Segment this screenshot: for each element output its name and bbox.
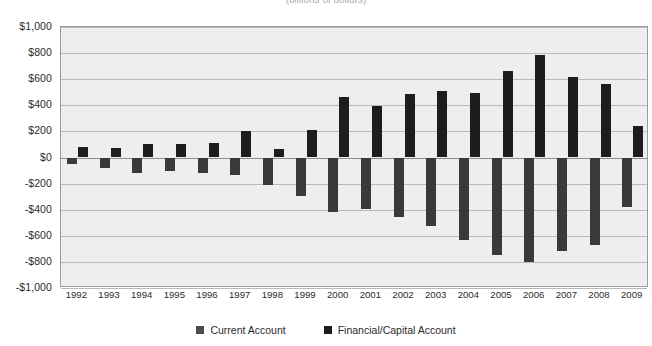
legend-item-current-account[interactable]: Current Account [196, 324, 285, 336]
x-axis-tick-label-1999: 1999 [289, 289, 322, 300]
y-axis-tick-label: $0 [40, 151, 52, 163]
bar-current-account-1996 [198, 158, 208, 174]
x-axis-tick-label-1992: 1992 [60, 289, 93, 300]
bar-financial-capital-account-2008 [601, 84, 611, 157]
x-axis-tick-label-1994: 1994 [125, 289, 158, 300]
y-axis-tick-label: -$1,000 [16, 281, 52, 293]
bar-current-account-2003 [426, 158, 436, 226]
bar-current-account-1999 [296, 158, 306, 197]
gridline [61, 262, 647, 263]
bar-current-account-2000 [328, 158, 338, 212]
legend-label: Financial/Capital Account [338, 324, 456, 336]
x-axis-tick-label-1995: 1995 [158, 289, 191, 300]
x-axis-tick-label-1996: 1996 [191, 289, 224, 300]
x-axis-tick-label-2003: 2003 [419, 289, 452, 300]
chart-title-clipped: (billions of dollars) [0, 0, 652, 12]
bar-current-account-1995 [165, 158, 175, 172]
x-axis-tick-label-2000: 2000 [321, 289, 354, 300]
y-axis-tick-label: -$400 [25, 203, 52, 215]
bar-financial-capital-account-2009 [633, 126, 643, 157]
legend-item-financial-capital-account[interactable]: Financial/Capital Account [324, 324, 456, 336]
bar-financial-capital-account-1994 [143, 144, 153, 158]
y-axis-tick-label: $800 [28, 46, 52, 58]
chart-figure: (billions of dollars) $1,000$800$600$400… [0, 0, 652, 346]
x-axis-tick-label-2004: 2004 [452, 289, 485, 300]
y-axis-tick-label: -$200 [25, 177, 52, 189]
y-axis-tick-label: $1,000 [19, 20, 52, 32]
bar-financial-capital-account-2001 [372, 106, 382, 157]
bar-current-account-2005 [492, 158, 502, 256]
plot-area [60, 26, 648, 287]
x-axis-tick-label-2005: 2005 [485, 289, 518, 300]
bar-current-account-1998 [263, 158, 273, 185]
bar-current-account-2004 [459, 158, 469, 240]
bar-current-account-2009 [622, 158, 632, 207]
gridline [61, 131, 647, 132]
y-axis-labels: $1,000$800$600$400$200$0-$200-$400-$600-… [0, 26, 56, 287]
gridline [61, 27, 647, 28]
x-axis-tick-label-2001: 2001 [354, 289, 387, 300]
chart-legend: Current AccountFinancial/Capital Account [0, 322, 652, 338]
bar-financial-capital-account-2003 [437, 91, 447, 157]
y-axis-tick-label: -$800 [25, 255, 52, 267]
bar-current-account-1997 [230, 158, 240, 176]
bar-current-account-2006 [524, 158, 534, 263]
bar-current-account-2002 [394, 158, 404, 218]
bar-financial-capital-account-1992 [78, 147, 88, 157]
legend-label: Current Account [210, 324, 285, 336]
footnote-clipped [0, 340, 652, 346]
bar-current-account-2007 [557, 158, 567, 252]
x-axis-tick-label-2007: 2007 [550, 289, 583, 300]
bar-financial-capital-account-1997 [241, 131, 251, 157]
x-axis-labels: 1992199319941995199619971998199920002001… [60, 289, 648, 307]
x-axis-tick-label-1993: 1993 [93, 289, 126, 300]
chart-title-text: (billions of dollars) [286, 0, 367, 5]
bar-financial-capital-account-2000 [339, 97, 349, 157]
x-axis-tick-label-2002: 2002 [387, 289, 420, 300]
y-axis-tick-label: $200 [28, 124, 52, 136]
bar-financial-capital-account-2006 [535, 55, 545, 158]
y-axis-tick-label: $400 [28, 98, 52, 110]
bar-financial-capital-account-2004 [470, 93, 480, 158]
y-axis-tick-label: $600 [28, 72, 52, 84]
bar-financial-capital-account-2002 [405, 94, 415, 157]
bar-financial-capital-account-1998 [274, 149, 284, 157]
bar-current-account-1992 [67, 158, 77, 165]
legend-swatch-icon [324, 326, 332, 334]
gridline [61, 105, 647, 106]
y-axis-tick-label: -$600 [25, 229, 52, 241]
x-axis-tick-label-1998: 1998 [256, 289, 289, 300]
bar-financial-capital-account-1995 [176, 144, 186, 157]
bar-financial-capital-account-1993 [111, 148, 121, 157]
bar-financial-capital-account-1999 [307, 130, 317, 157]
bar-current-account-1993 [100, 158, 110, 169]
x-axis-tick-label-2006: 2006 [517, 289, 550, 300]
bar-current-account-2001 [361, 158, 371, 210]
gridline [61, 53, 647, 54]
bar-financial-capital-account-2007 [568, 77, 578, 158]
x-axis-tick-label-2009: 2009 [615, 289, 648, 300]
x-axis-tick-label-2008: 2008 [583, 289, 616, 300]
legend-swatch-icon [196, 326, 204, 334]
x-axis-tick-label-1997: 1997 [223, 289, 256, 300]
bar-current-account-2008 [590, 158, 600, 245]
bar-financial-capital-account-2005 [503, 71, 513, 157]
bar-current-account-1994 [132, 158, 142, 174]
gridline [61, 79, 647, 80]
bar-financial-capital-account-1996 [209, 143, 219, 158]
